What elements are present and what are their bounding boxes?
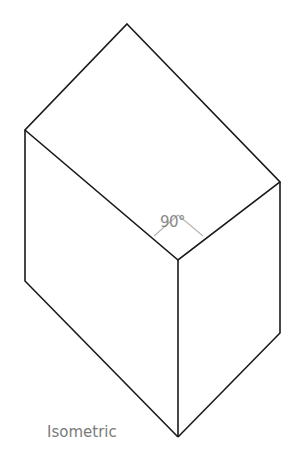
- diagram-caption: Isometric: [47, 423, 117, 441]
- isometric-diagram: 90° Isometric: [0, 0, 298, 465]
- left-face-edges: [25, 130, 178, 437]
- prism-drawing: [0, 0, 298, 465]
- top-face: [25, 24, 280, 260]
- angle-label: 90°: [160, 213, 185, 231]
